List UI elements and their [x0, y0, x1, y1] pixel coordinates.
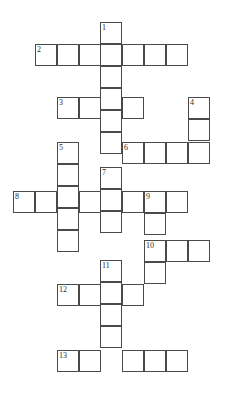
- crossword-cell-numbered[interactable]: 9: [144, 191, 166, 213]
- crossword-cell[interactable]: [79, 350, 101, 372]
- crossword-cell[interactable]: [188, 142, 210, 164]
- crossword-clue-number: 4: [190, 98, 194, 107]
- crossword-grid: 12345678910111213: [0, 0, 240, 397]
- crossword-cell[interactable]: [122, 350, 144, 372]
- crossword-cell[interactable]: [100, 304, 122, 326]
- crossword-cell[interactable]: [57, 208, 79, 230]
- crossword-cell-numbered[interactable]: 13: [57, 350, 79, 372]
- crossword-cell[interactable]: [144, 44, 166, 66]
- crossword-cell[interactable]: [57, 230, 79, 252]
- crossword-cell-numbered[interactable]: 12: [57, 284, 79, 306]
- crossword-clue-number: 7: [102, 168, 106, 177]
- crossword-cell[interactable]: [122, 44, 144, 66]
- crossword-clue-number: 6: [124, 143, 128, 152]
- crossword-cell[interactable]: [100, 44, 122, 66]
- crossword-cell[interactable]: [166, 191, 188, 213]
- crossword-clue-number: 10: [146, 241, 154, 250]
- crossword-cell[interactable]: [35, 191, 57, 213]
- crossword-cell[interactable]: [100, 66, 122, 88]
- crossword-clue-number: 8: [15, 192, 19, 201]
- crossword-clue-number: 12: [59, 285, 67, 294]
- crossword-cell[interactable]: [79, 284, 101, 306]
- crossword-cell-numbered[interactable]: 6: [122, 142, 144, 164]
- crossword-clue-number: 9: [146, 192, 150, 201]
- crossword-cell[interactable]: [144, 262, 166, 284]
- crossword-cell[interactable]: [100, 211, 122, 233]
- crossword-cell[interactable]: [100, 189, 122, 211]
- crossword-cell-numbered[interactable]: 3: [57, 97, 79, 119]
- crossword-cell[interactable]: [166, 350, 188, 372]
- crossword-cell[interactable]: [100, 110, 122, 132]
- crossword-clue-number: 3: [59, 98, 63, 107]
- crossword-cell[interactable]: [100, 326, 122, 348]
- crossword-cell-numbered[interactable]: 8: [13, 191, 35, 213]
- crossword-cell[interactable]: [57, 164, 79, 186]
- crossword-cell[interactable]: [79, 97, 101, 119]
- crossword-cell[interactable]: [166, 240, 188, 262]
- crossword-cell[interactable]: [79, 191, 101, 213]
- crossword-cell-numbered[interactable]: 10: [144, 240, 166, 262]
- crossword-clue-number: 1: [102, 23, 106, 32]
- crossword-cell[interactable]: [57, 44, 79, 66]
- crossword-cell[interactable]: [57, 186, 79, 208]
- crossword-cell[interactable]: [122, 97, 144, 119]
- crossword-cell[interactable]: [188, 240, 210, 262]
- crossword-cell[interactable]: [100, 88, 122, 110]
- crossword-clue-number: 11: [102, 261, 110, 270]
- crossword-cell[interactable]: [122, 284, 144, 306]
- crossword-cell[interactable]: [188, 119, 210, 141]
- crossword-cell[interactable]: [166, 142, 188, 164]
- crossword-cell-numbered[interactable]: 11: [100, 260, 122, 282]
- crossword-cell[interactable]: [144, 350, 166, 372]
- crossword-cell-numbered[interactable]: 1: [100, 22, 122, 44]
- crossword-cell[interactable]: [144, 142, 166, 164]
- crossword-cell[interactable]: [122, 191, 144, 213]
- crossword-clue-number: 5: [59, 143, 63, 152]
- crossword-cell[interactable]: [144, 213, 166, 235]
- crossword-cell-numbered[interactable]: 2: [35, 44, 57, 66]
- crossword-cell[interactable]: [100, 132, 122, 154]
- crossword-cell[interactable]: [166, 44, 188, 66]
- crossword-clue-number: 2: [37, 45, 41, 54]
- crossword-cell-numbered[interactable]: 5: [57, 142, 79, 164]
- crossword-cell[interactable]: [79, 44, 101, 66]
- crossword-cell-numbered[interactable]: 7: [100, 167, 122, 189]
- crossword-cell[interactable]: [100, 282, 122, 304]
- crossword-clue-number: 13: [59, 351, 67, 360]
- crossword-cell-numbered[interactable]: 4: [188, 97, 210, 119]
